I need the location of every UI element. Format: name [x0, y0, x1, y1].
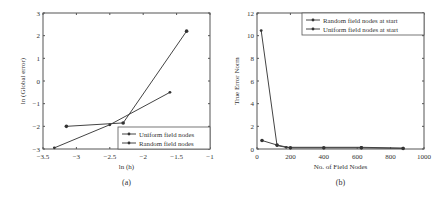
x-tick-label: 600: [352, 153, 363, 161]
data-point: [322, 146, 326, 150]
x-tick-label: 200: [285, 153, 296, 161]
data-point: [185, 29, 189, 33]
data-point: [289, 146, 293, 150]
x-tick-label: 0: [255, 153, 259, 161]
series-line: [66, 31, 186, 126]
legend-entry: Random field nodes: [139, 140, 194, 147]
x-tick-label: 800: [385, 153, 396, 161]
chart-a: −3.5−3−2.5−2−1.5−1−3−2−10123ln (h)ln (Gl…: [19, 10, 214, 188]
y-tick-label: 12: [247, 10, 255, 18]
x-tick-label: −2: [139, 153, 147, 161]
data-point: [169, 91, 172, 94]
data-point: [260, 139, 264, 143]
figure: −3.5−3−2.5−2−1.5−1−3−2−10123ln (h)ln (Gl…: [0, 0, 445, 203]
y-tick-label: 2: [37, 32, 41, 40]
y-tick-label: −1: [33, 100, 41, 108]
data-point: [53, 146, 56, 149]
y-axis-label: ln (Global error): [19, 57, 27, 104]
y-tick-label: 8: [251, 55, 255, 63]
y-tick-label: 3: [37, 10, 41, 18]
y-tick-label: 6: [251, 78, 255, 86]
legend-entry: Uniform field nodes at start: [323, 26, 398, 33]
y-tick-label: 0: [37, 78, 41, 86]
data-point: [65, 125, 69, 129]
x-tick-label: 1000: [417, 153, 432, 161]
y-tick-label: −2: [33, 123, 41, 131]
x-axis-label: No. of Field Nodes: [314, 163, 368, 171]
y-tick-label: 0: [251, 146, 255, 154]
figure-caption: (b): [336, 178, 346, 187]
x-tick-label: −3.5: [37, 153, 50, 161]
x-tick-label: −3: [73, 153, 81, 161]
y-tick-label: 10: [247, 32, 255, 40]
y-tick-label: −3: [33, 146, 41, 154]
data-point: [275, 143, 279, 147]
chart-b: 02004006008001000024681012No. of Field N…: [233, 10, 432, 188]
y-tick-label: 2: [251, 123, 255, 131]
x-tick-label: 400: [319, 153, 330, 161]
data-point: [360, 146, 364, 150]
x-tick-label: −1: [206, 153, 214, 161]
series-line: [261, 31, 403, 149]
x-tick-label: −1.5: [170, 153, 183, 161]
figure-caption: (a): [122, 178, 131, 187]
y-tick-label: 4: [251, 100, 255, 108]
data-point: [401, 147, 405, 151]
x-axis-label: ln (h): [119, 163, 135, 171]
y-axis-label: True Error Norm: [233, 57, 241, 105]
legend-entry: Random field nodes at start: [323, 17, 398, 24]
y-tick-label: 1: [37, 55, 41, 63]
x-tick-label: −2.5: [103, 153, 116, 161]
data-point: [121, 121, 125, 125]
legend-entry: Uniform field nodes: [139, 131, 194, 138]
data-point: [260, 29, 263, 32]
